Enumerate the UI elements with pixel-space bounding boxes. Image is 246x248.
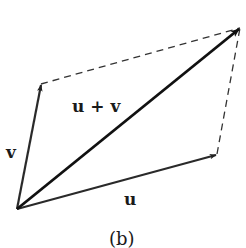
label-v: v: [5, 142, 17, 162]
vector-u-arrow: [17, 155, 216, 209]
figure-caption: (b): [109, 228, 135, 248]
dashed-side-right: [217, 28, 240, 154]
vector-v-arrow: [17, 85, 41, 209]
label-u: u: [124, 189, 136, 209]
label-sum: u + v: [72, 96, 121, 116]
dashed-side-top: [41, 28, 240, 84]
vector-diagram: v u + v u (b): [0, 0, 246, 248]
vector-sum-arrow: [17, 29, 239, 209]
